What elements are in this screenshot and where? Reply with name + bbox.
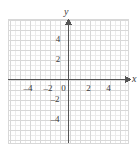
x-tick-label-0: 0: [60, 84, 67, 93]
x-tick-label-neg4: –4: [22, 84, 34, 93]
coordinate-grid-figure: –4 –2 0 2 4 4 2 –2 –4 y x: [0, 0, 139, 150]
y-tick-label-2: 2: [54, 55, 62, 64]
y-axis-name-label: y: [64, 7, 68, 17]
x-tick-label-4: 4: [105, 84, 112, 93]
coordinate-plane: [0, 0, 139, 150]
y-tick-label-neg4: –4: [48, 115, 62, 124]
y-tick-label-4: 4: [54, 35, 62, 44]
x-tick-label-2: 2: [85, 84, 92, 93]
y-tick-label-neg2: –2: [48, 95, 62, 104]
x-axis-name-label: x: [132, 74, 136, 84]
x-tick-label-neg2: –2: [42, 84, 54, 93]
